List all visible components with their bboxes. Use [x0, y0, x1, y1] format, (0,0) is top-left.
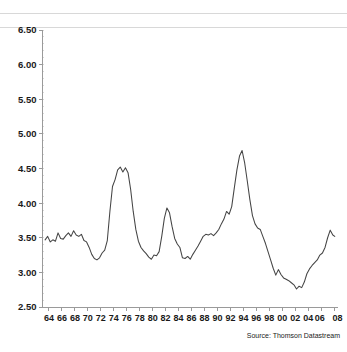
x-axis-tick-label: 02 [290, 313, 300, 323]
y-axis-tick-label: 4.00 [18, 198, 37, 209]
y-axis-tick-label: 2.50 [18, 301, 37, 312]
x-axis-tick-label: 04 [303, 313, 313, 323]
y-axis-tick-label: 5.00 [18, 128, 37, 139]
x-axis-tick-label: 82 [161, 313, 171, 323]
y-axis-tick-label: 3.50 [18, 232, 37, 243]
x-axis-tick-label: 64 [44, 313, 54, 323]
x-axis-tick-label: 94 [238, 313, 248, 323]
x-axis-tick-label: 70 [83, 313, 93, 323]
x-axis-tick-label: 72 [96, 313, 106, 323]
x-axis-tick-label: 00 [277, 313, 287, 323]
x-axis-tick-label: 92 [225, 313, 235, 323]
chart-figure: 2.503.003.504.004.505.005.506.006.50 646… [0, 0, 347, 352]
x-axis-tick-label: 86 [187, 313, 197, 323]
x-axis-tick-label: 06 [315, 313, 325, 323]
y-axis-tick-label: 5.50 [18, 94, 37, 105]
data-series-line [45, 151, 335, 290]
x-axis-tick-label: 76 [122, 313, 132, 323]
x-axis-tick-label: 98 [264, 313, 274, 323]
y-axis-tick-label: 6.50 [18, 24, 37, 35]
line-chart-plot: 2.503.003.504.004.505.005.506.006.50 646… [0, 0, 347, 352]
source-attribution: Source: Thomson Datastream [247, 332, 340, 339]
y-axis-tick-label: 4.50 [18, 163, 37, 174]
y-axis-tick-label: 6.00 [18, 59, 37, 70]
y-axis: 2.503.003.504.004.505.005.506.006.50 [18, 24, 44, 312]
x-axis: 6466687072747678808284868890929496980002… [43, 307, 343, 323]
x-axis-tick-label: 88 [199, 313, 209, 323]
x-axis-tick-label: 74 [109, 313, 119, 323]
x-axis-tick-label: 84 [174, 313, 184, 323]
x-axis-tick-label: 68 [70, 313, 80, 323]
x-axis-tick-label: 80 [148, 313, 158, 323]
x-axis-tick-label: 90 [212, 313, 222, 323]
x-axis-tick-label: 66 [57, 313, 67, 323]
x-axis-tick-label: 08 [333, 313, 343, 323]
x-axis-tick-label: 78 [135, 313, 145, 323]
x-axis-tick-label: 96 [251, 313, 261, 323]
y-axis-tick-label: 3.00 [18, 267, 37, 278]
